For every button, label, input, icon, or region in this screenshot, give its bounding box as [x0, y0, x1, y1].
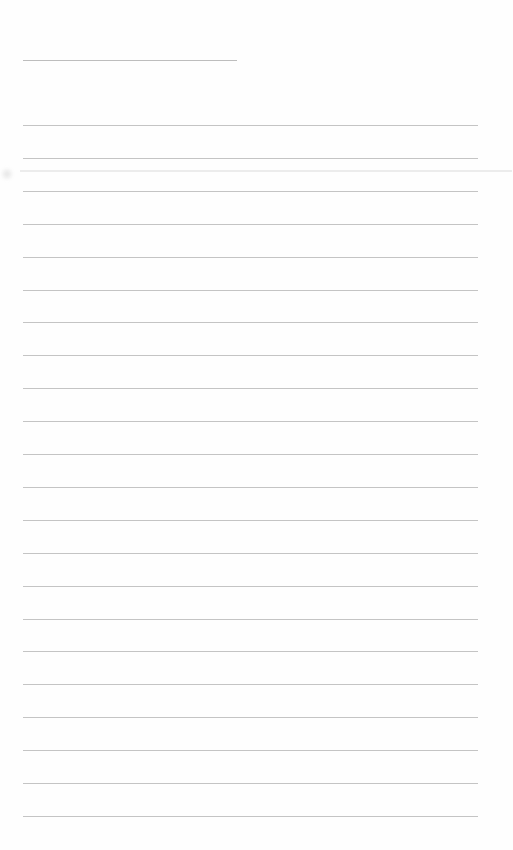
ruled-line — [23, 454, 478, 455]
ruled-line — [23, 487, 478, 488]
ruled-line — [23, 322, 478, 323]
scan-smudge — [3, 170, 11, 178]
ruled-line — [23, 355, 478, 356]
scan-artifact — [20, 170, 512, 172]
ruled-line — [23, 191, 478, 192]
ruled-line — [23, 586, 478, 587]
ruled-line — [23, 553, 478, 554]
ruled-line — [23, 158, 478, 159]
ruled-line — [23, 421, 478, 422]
title-line — [23, 60, 237, 61]
ruled-line — [23, 257, 478, 258]
ruled-line — [23, 224, 478, 225]
ruled-line — [23, 651, 478, 652]
ruled-line — [23, 520, 478, 521]
ruled-line — [23, 388, 478, 389]
ruled-line — [23, 290, 478, 291]
ruled-line — [23, 684, 478, 685]
ruled-line — [23, 717, 478, 718]
ruled-line — [23, 783, 478, 784]
lined-page — [0, 0, 513, 850]
ruled-line — [23, 816, 478, 817]
ruled-line — [23, 125, 478, 126]
ruled-line — [23, 750, 478, 751]
ruled-line — [23, 619, 478, 620]
